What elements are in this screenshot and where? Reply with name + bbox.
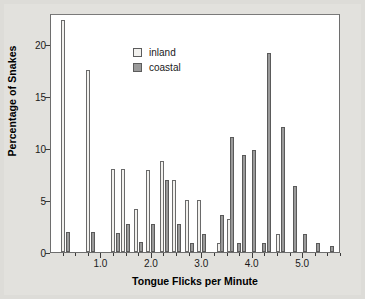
x-tick-label: 1.0	[93, 258, 107, 269]
x-tick-label: 3.0	[194, 258, 208, 269]
x-minor-tick-mark	[264, 253, 265, 256]
bar-coastal	[126, 224, 130, 252]
legend-label: inland	[149, 48, 176, 58]
bar-inland	[61, 20, 65, 252]
figure: Percentage of Snakes 05101520 1.02.03.04…	[0, 0, 365, 299]
bar-coastal	[165, 180, 169, 252]
bar-inland	[227, 219, 231, 252]
bar-coastal	[267, 53, 271, 253]
x-minor-tick-mark	[189, 253, 190, 256]
bar-coastal	[151, 224, 155, 252]
x-tick-label: 2.0	[144, 258, 158, 269]
bar-inland	[134, 209, 138, 252]
bar-inland	[111, 169, 115, 252]
legend: inlandcoastal	[133, 45, 181, 75]
bar-inland	[197, 200, 201, 252]
legend-swatch-coastal	[133, 63, 142, 72]
y-axis-title: Percentage of Snakes	[6, 26, 18, 176]
bar-inland	[146, 170, 150, 252]
x-tick-label: 4.0	[245, 258, 259, 269]
x-tick-label: 5.0	[295, 258, 309, 269]
x-minor-tick-mark	[75, 253, 76, 256]
y-axis-tick-labels: 05101520	[22, 14, 46, 253]
bars-layer	[51, 15, 339, 252]
x-minor-tick-mark	[290, 253, 291, 256]
bar-coastal	[330, 246, 334, 252]
bar-inland	[217, 243, 221, 252]
bar-coastal	[293, 186, 297, 253]
bar-coastal	[303, 234, 307, 252]
bar-inland	[160, 161, 164, 252]
bar-inland	[185, 200, 189, 252]
x-minor-tick-mark	[214, 253, 215, 256]
x-minor-tick-mark	[227, 253, 228, 256]
bar-coastal	[281, 127, 285, 252]
bar-coastal	[242, 155, 246, 252]
x-minor-tick-mark	[176, 253, 177, 256]
x-minor-tick-mark	[277, 253, 278, 256]
bar-coastal	[316, 243, 320, 252]
x-minor-tick-mark	[163, 253, 164, 256]
x-axis-title: Tongue Flicks per Minute	[50, 275, 340, 287]
bar-coastal	[237, 243, 241, 252]
plot-area	[50, 14, 340, 253]
x-minor-tick-mark	[88, 253, 89, 256]
bar-coastal	[262, 243, 266, 252]
bar-coastal	[252, 150, 256, 252]
x-minor-tick-mark	[113, 253, 114, 256]
x-minor-tick-mark	[239, 253, 240, 256]
bar-coastal	[91, 232, 95, 252]
x-minor-tick-mark	[315, 253, 316, 256]
x-minor-tick-mark	[126, 253, 127, 256]
legend-swatch-inland	[133, 48, 142, 57]
x-minor-tick-mark	[138, 253, 139, 256]
bar-coastal	[139, 242, 143, 252]
bar-inland	[121, 169, 125, 252]
legend-label: coastal	[149, 63, 181, 73]
legend-item: inland	[133, 45, 181, 60]
bar-inland	[86, 70, 90, 252]
x-minor-tick-mark	[327, 253, 328, 256]
x-axis-ticks: 1.02.03.04.05.0	[50, 253, 340, 259]
bar-coastal	[66, 232, 70, 252]
bar-coastal	[177, 224, 181, 252]
bar-coastal	[190, 243, 194, 252]
bar-coastal	[116, 233, 120, 252]
bar-inland	[276, 234, 280, 252]
x-minor-tick-mark	[63, 253, 64, 256]
legend-item: coastal	[133, 60, 181, 75]
bar-coastal	[202, 234, 206, 252]
bar-inland	[172, 180, 176, 252]
x-minor-tick-mark	[340, 253, 341, 256]
